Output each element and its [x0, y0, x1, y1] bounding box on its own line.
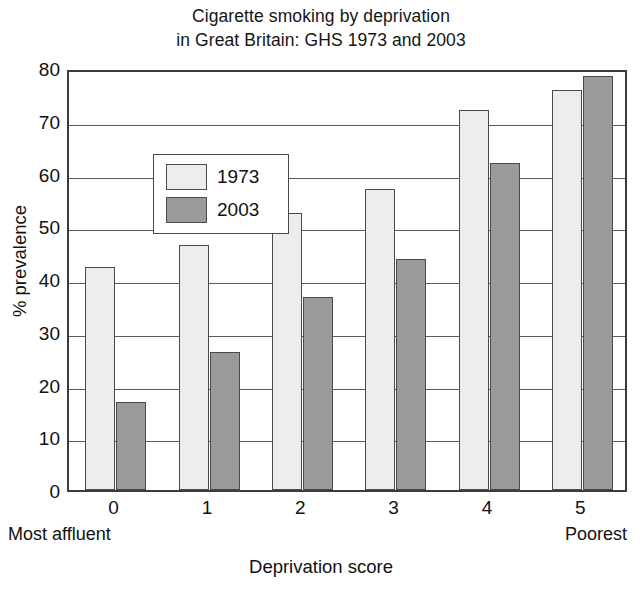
- bar-1973-2: [272, 213, 302, 490]
- y-tick-label-0: 0: [14, 482, 60, 501]
- legend-label-2003: 2003: [217, 198, 259, 222]
- x-tick-label-3: 3: [364, 497, 424, 519]
- y-tick-label-30: 30: [14, 324, 60, 343]
- bar-2003-4: [490, 163, 520, 490]
- bar-1973-0: [85, 267, 115, 490]
- x-tick-label-0: 0: [84, 497, 144, 519]
- x-tick-label-2: 2: [270, 497, 330, 519]
- x-tick-label-5: 5: [550, 497, 610, 519]
- y-tick-label-80: 80: [14, 60, 60, 79]
- y-tick-label-50: 50: [14, 218, 60, 237]
- chart-figure: Cigarette smoking by deprivation in Grea…: [0, 0, 642, 590]
- bar-2003-3: [396, 259, 426, 490]
- plot-area: 1973 2003: [67, 70, 627, 492]
- y-tick-label-40: 40: [14, 271, 60, 290]
- y-tick-label-60: 60: [14, 166, 60, 185]
- bar-2003-5: [583, 76, 613, 490]
- bar-1973-5: [552, 90, 582, 490]
- chart-title-line-2: in Great Britain: GHS 1973 and 2003: [0, 28, 642, 52]
- bar-1973-4: [459, 110, 489, 490]
- legend-swatch-1973: [166, 164, 207, 190]
- bar-1973-3: [365, 189, 395, 490]
- x-tick-label-1: 1: [177, 497, 237, 519]
- bar-2003-2: [303, 297, 333, 490]
- legend-label-1973: 1973: [217, 165, 259, 189]
- chart-legend: 1973 2003: [153, 154, 289, 234]
- legend-swatch-2003: [166, 197, 207, 223]
- bar-1973-1: [179, 245, 209, 490]
- x-tick-label-4: 4: [457, 497, 517, 519]
- bars-layer: [69, 72, 625, 490]
- y-axis-tick-labels: 01020304050607080: [8, 0, 60, 590]
- y-tick-label-10: 10: [14, 429, 60, 448]
- y-tick-label-20: 20: [14, 377, 60, 396]
- x-axis-label-most-affluent: Most affluent: [8, 524, 111, 545]
- chart-title-line-1: Cigarette smoking by deprivation: [0, 4, 642, 28]
- x-axis-label-poorest: Poorest: [565, 524, 627, 545]
- x-axis-title: Deprivation score: [0, 556, 642, 578]
- x-axis-endpoint-labels: Most affluent Poorest: [0, 524, 642, 550]
- bar-2003-0: [116, 402, 146, 490]
- y-tick-label-70: 70: [14, 113, 60, 132]
- chart-title: Cigarette smoking by deprivation in Grea…: [0, 4, 642, 52]
- x-axis-tick-labels: 012345: [67, 497, 627, 527]
- bar-2003-1: [210, 352, 240, 490]
